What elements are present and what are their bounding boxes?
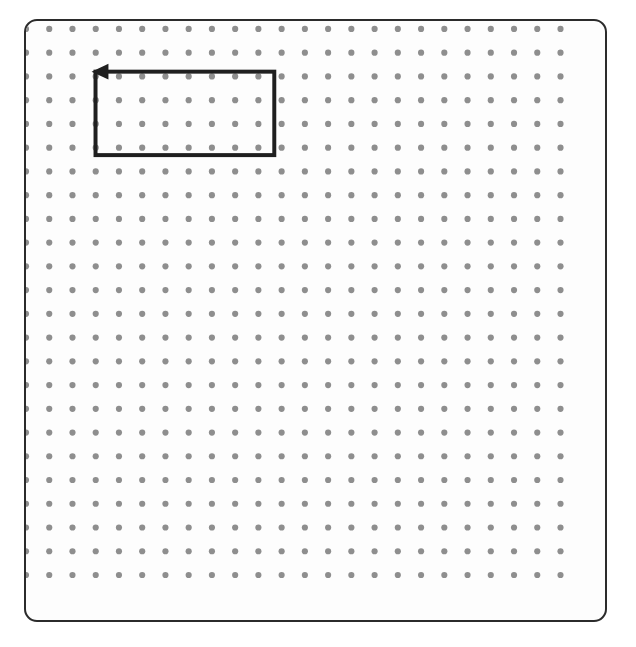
canvas-frame[interactable] [24,19,607,622]
app-root [0,0,636,647]
rectangle-shape[interactable] [96,72,275,155]
drawing-layer[interactable] [26,21,605,620]
